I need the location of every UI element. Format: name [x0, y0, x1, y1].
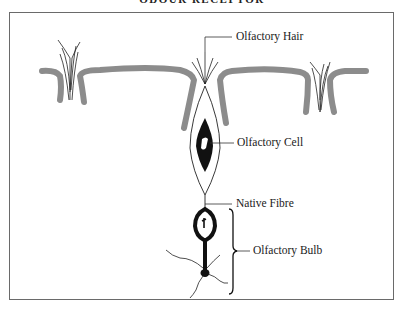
- hair-tuft-right: [310, 62, 330, 112]
- odour-receptor-diagram: [0, 0, 404, 311]
- label-olfactory-bulb: Olfactory Bulb: [253, 244, 322, 256]
- bulb-bracket: [229, 209, 237, 294]
- bulb-dendrites: [166, 250, 228, 298]
- label-olfactory-cell: Olfactory Cell: [237, 136, 303, 148]
- label-native-fibre: Native Fibre: [236, 197, 294, 209]
- leader-hair: [205, 37, 232, 52]
- label-olfactory-hair: Olfactory Hair: [236, 30, 303, 42]
